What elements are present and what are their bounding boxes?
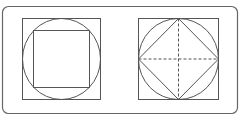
right-figure bbox=[139, 19, 219, 100]
outer-frame bbox=[3, 7, 238, 114]
diagram-canvas bbox=[0, 0, 242, 120]
left-inner-square bbox=[34, 31, 90, 88]
left-figure bbox=[23, 19, 101, 100]
